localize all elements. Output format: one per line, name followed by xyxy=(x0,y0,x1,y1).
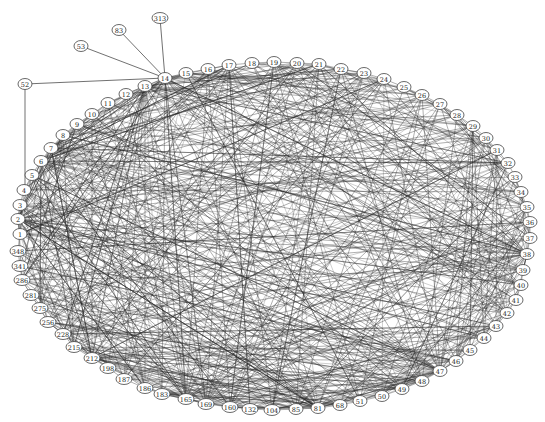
node-label: 33 xyxy=(511,174,519,182)
node-53[interactable]: 53 xyxy=(74,41,88,52)
node-label: 44 xyxy=(480,335,488,343)
node-20[interactable]: 20 xyxy=(290,58,304,69)
node-38[interactable]: 38 xyxy=(520,249,534,260)
node-7[interactable]: 7 xyxy=(44,143,58,154)
node-256[interactable]: 256 xyxy=(40,317,56,328)
node-13[interactable]: 13 xyxy=(138,81,152,92)
node-68[interactable]: 68 xyxy=(333,400,347,411)
node-45[interactable]: 45 xyxy=(463,345,477,356)
node-41[interactable]: 41 xyxy=(509,295,523,306)
node-31[interactable]: 31 xyxy=(490,145,504,156)
node-228[interactable]: 228 xyxy=(55,329,71,340)
node-47[interactable]: 47 xyxy=(433,366,447,377)
node-22[interactable]: 22 xyxy=(334,64,348,75)
node-19[interactable]: 19 xyxy=(267,57,281,68)
node-183[interactable]: 183 xyxy=(154,389,170,400)
node-11[interactable]: 11 xyxy=(101,98,115,109)
node-215[interactable]: 215 xyxy=(66,342,82,353)
node-34[interactable]: 34 xyxy=(514,187,528,198)
node-10[interactable]: 10 xyxy=(85,109,99,120)
node-label: 286 xyxy=(16,277,28,285)
node-4[interactable]: 4 xyxy=(17,185,31,196)
node-18[interactable]: 18 xyxy=(245,58,259,69)
node-5[interactable]: 5 xyxy=(25,170,39,181)
node-186[interactable]: 186 xyxy=(137,383,153,394)
node-26[interactable]: 26 xyxy=(415,90,429,101)
node-37[interactable]: 37 xyxy=(523,233,537,244)
node-1[interactable]: 1 xyxy=(13,229,27,240)
node-35[interactable]: 35 xyxy=(520,202,534,213)
node-label: 45 xyxy=(466,347,474,355)
node-341[interactable]: 341 xyxy=(12,261,28,272)
node-348[interactable]: 348 xyxy=(10,246,26,257)
node-40[interactable]: 40 xyxy=(514,280,528,291)
node-165[interactable]: 165 xyxy=(178,394,194,405)
node-33[interactable]: 33 xyxy=(508,172,522,183)
node-27[interactable]: 27 xyxy=(433,99,447,110)
node-46[interactable]: 46 xyxy=(449,356,463,367)
node-label: 16 xyxy=(204,66,212,74)
node-132[interactable]: 132 xyxy=(242,404,258,415)
node-25[interactable]: 25 xyxy=(397,82,411,93)
node-label: 10 xyxy=(88,111,96,119)
node-39[interactable]: 39 xyxy=(516,265,530,276)
node-label: 169 xyxy=(200,401,212,409)
node-8[interactable]: 8 xyxy=(56,130,70,141)
node-198[interactable]: 198 xyxy=(100,363,116,374)
node-160[interactable]: 160 xyxy=(222,402,238,413)
node-169[interactable]: 169 xyxy=(198,399,214,410)
node-label: 81 xyxy=(314,405,322,413)
node-212[interactable]: 212 xyxy=(84,353,100,364)
node-44[interactable]: 44 xyxy=(477,333,491,344)
node-9[interactable]: 9 xyxy=(70,119,84,130)
edge xyxy=(402,270,523,389)
node-104[interactable]: 104 xyxy=(264,405,280,416)
node-43[interactable]: 43 xyxy=(489,321,503,332)
node-83[interactable]: 83 xyxy=(112,25,126,36)
node-85[interactable]: 85 xyxy=(289,404,303,415)
node-81[interactable]: 81 xyxy=(311,403,325,414)
node-36[interactable]: 36 xyxy=(523,217,537,228)
node-14[interactable]: 14 xyxy=(158,73,172,84)
node-label: 32 xyxy=(504,160,512,168)
node-label: 39 xyxy=(519,267,527,275)
node-51[interactable]: 51 xyxy=(353,396,367,407)
node-label: 40 xyxy=(517,282,525,290)
node-187[interactable]: 187 xyxy=(116,374,132,385)
edge xyxy=(81,46,165,78)
node-6[interactable]: 6 xyxy=(34,156,48,167)
node-21[interactable]: 21 xyxy=(312,59,326,70)
node-16[interactable]: 16 xyxy=(201,64,215,75)
node-50[interactable]: 50 xyxy=(375,391,389,402)
node-label: 1 xyxy=(18,231,22,239)
node-3[interactable]: 3 xyxy=(13,200,27,211)
node-label: 275 xyxy=(34,305,46,313)
edge-layer xyxy=(18,18,530,410)
node-12[interactable]: 12 xyxy=(119,89,133,100)
node-281[interactable]: 281 xyxy=(23,290,39,301)
node-label: 12 xyxy=(122,91,130,99)
node-275[interactable]: 275 xyxy=(32,303,48,314)
node-313[interactable]: 313 xyxy=(152,13,168,24)
node-32[interactable]: 32 xyxy=(501,158,515,169)
node-15[interactable]: 15 xyxy=(179,68,193,79)
node-286[interactable]: 286 xyxy=(14,275,30,286)
node-23[interactable]: 23 xyxy=(357,68,371,79)
node-label: 15 xyxy=(182,70,190,78)
node-24[interactable]: 24 xyxy=(377,74,391,85)
node-label: 24 xyxy=(380,76,388,84)
node-label: 228 xyxy=(57,331,69,339)
node-49[interactable]: 49 xyxy=(395,384,409,395)
node-42[interactable]: 42 xyxy=(500,308,514,319)
node-17[interactable]: 17 xyxy=(222,60,236,71)
node-30[interactable]: 30 xyxy=(479,133,493,144)
node-2[interactable]: 2 xyxy=(11,214,25,225)
node-label: 30 xyxy=(482,135,490,143)
graph-canvas: 1234567891011121314151617181920212223242… xyxy=(0,0,545,422)
node-label: 198 xyxy=(102,365,114,373)
node-28[interactable]: 28 xyxy=(450,110,464,121)
node-label: 14 xyxy=(161,75,169,83)
node-52[interactable]: 52 xyxy=(18,79,32,90)
node-29[interactable]: 29 xyxy=(466,121,480,132)
node-48[interactable]: 48 xyxy=(415,376,429,387)
